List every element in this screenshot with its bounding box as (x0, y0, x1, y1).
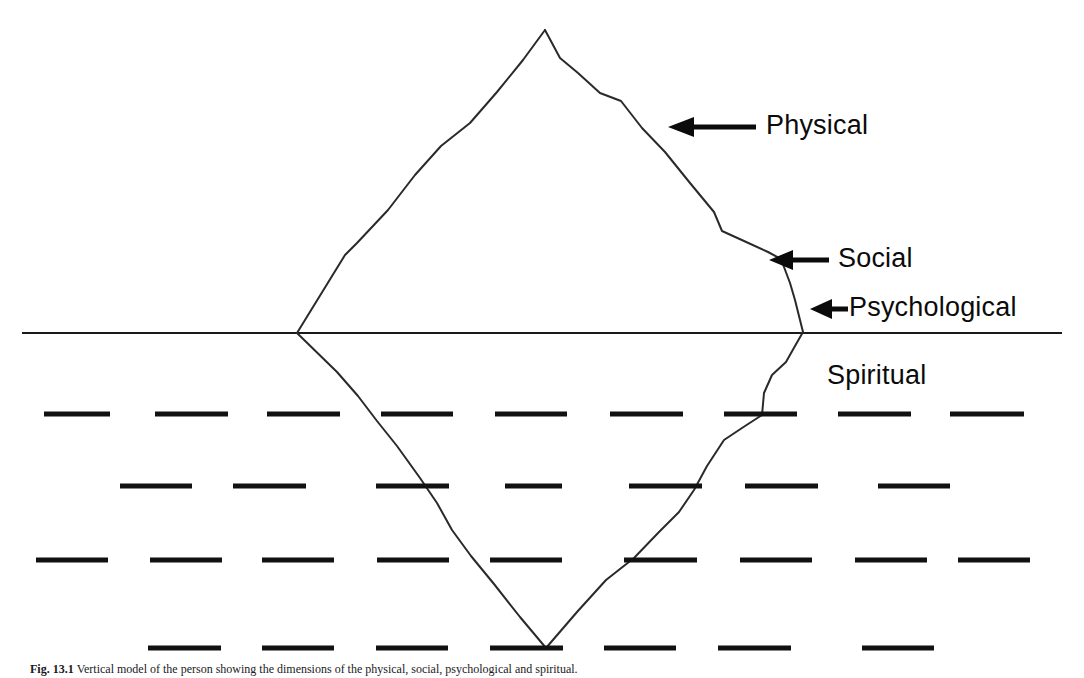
label-psychological: Psychological (849, 294, 1017, 321)
label-physical: Physical (766, 112, 868, 139)
label-spiritual: Spiritual (827, 362, 926, 389)
iceberg-edge-lower-left (297, 333, 546, 648)
figure-caption-number: Fig. 13.1 (30, 662, 77, 676)
leader-arrow-group (668, 117, 848, 319)
iceberg-edge-upper-right (545, 30, 803, 332)
figure-caption: Fig. 13.1 Vertical model of the person s… (30, 662, 1070, 678)
iceberg-diagram-svg (0, 0, 1084, 678)
social-leader-arrow-icon (769, 250, 829, 270)
water-dash-field (36, 414, 1030, 648)
figure-canvas: Physical Social Psychological Spiritual … (0, 0, 1084, 678)
psychological-leader-arrow-icon (810, 299, 848, 319)
label-social: Social (838, 245, 913, 272)
physical-leader-arrow-icon (668, 117, 756, 137)
figure-caption-text: Vertical model of the person showing the… (77, 662, 578, 676)
iceberg-edge-upper-left (297, 30, 545, 333)
iceberg-edge-lower-right (546, 332, 803, 648)
